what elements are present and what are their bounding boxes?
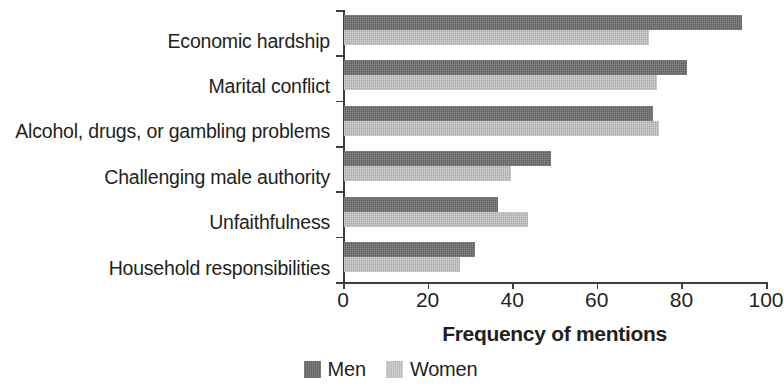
bar-men-household-responsibilities <box>344 242 475 257</box>
x-axis-tick-label-60: 60 <box>585 288 608 312</box>
bar-men-unfaithfulness <box>344 197 498 212</box>
y-axis-tick <box>336 101 343 103</box>
y-axis-tick <box>336 237 343 239</box>
legend-swatch-men-icon <box>304 361 321 378</box>
bar-men-alcohol-drugs-gambling <box>344 106 653 121</box>
bar-women-household-responsibilities <box>344 257 460 272</box>
bar-women-challenging-male-authority <box>344 166 511 181</box>
x-axis-tick-label-0: 0 <box>337 288 349 312</box>
x-axis-line <box>343 282 766 284</box>
y-axis-tick <box>336 191 343 193</box>
bar-men-marital-conflict <box>344 60 687 75</box>
x-axis-tick-label-100: 100 <box>748 288 783 312</box>
legend: Men Women <box>0 358 781 381</box>
bar-women-marital-conflict <box>344 75 657 90</box>
legend-label-women: Women <box>410 358 478 381</box>
category-label-economic-hardship: Economic hardship <box>0 30 330 52</box>
x-axis-title: Frequency of mentions <box>343 322 766 346</box>
legend-item-men: Men <box>304 358 366 381</box>
y-axis-tick <box>336 282 343 284</box>
bar-women-alcohol-drugs-gambling <box>344 121 659 136</box>
x-axis-tick-label-80: 80 <box>670 288 693 312</box>
legend-swatch-women-icon <box>386 361 403 378</box>
bar-men-economic-hardship <box>344 15 742 30</box>
bar-men-challenging-male-authority <box>344 151 551 166</box>
category-label-unfaithfulness: Unfaithfulness <box>0 211 330 233</box>
category-axis-labels: Economic hardship Marital conflict Alcoh… <box>0 10 336 282</box>
bar-women-economic-hardship <box>344 30 649 45</box>
category-label-alcohol-drugs-gambling: Alcohol, drugs, or gambling problems <box>0 120 330 142</box>
x-axis-tick-label-40: 40 <box>501 288 524 312</box>
y-axis-tick <box>336 146 343 148</box>
bar-women-unfaithfulness <box>344 212 528 227</box>
category-label-marital-conflict: Marital conflict <box>0 75 330 97</box>
legend-item-women: Women <box>386 358 478 381</box>
y-axis-tick <box>336 10 343 12</box>
legend-label-men: Men <box>328 358 366 381</box>
category-label-household-responsibilities: Household responsibilities <box>0 257 330 279</box>
y-axis-tick <box>336 55 343 57</box>
plot-area: 0 20 40 60 80 100 <box>343 10 766 282</box>
category-label-challenging-male-authority: Challenging male authority <box>0 166 330 188</box>
x-axis-tick-label-20: 20 <box>416 288 439 312</box>
